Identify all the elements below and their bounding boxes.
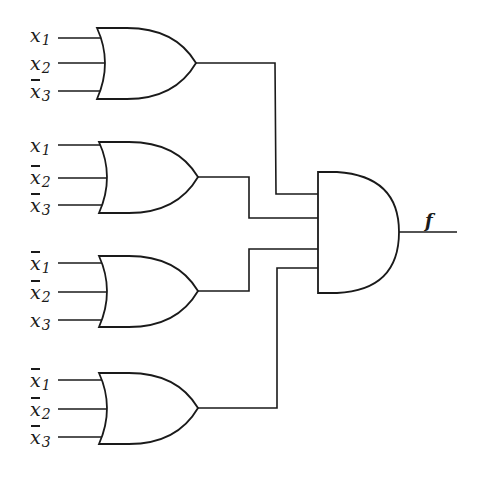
output-label: f [425, 210, 433, 231]
negation-bar [31, 165, 40, 167]
negation-bar [31, 397, 40, 399]
input-label: x1 [30, 26, 51, 45]
input-label-negated: x2 [30, 400, 51, 419]
negation-bar [31, 280, 40, 282]
negation-bar [31, 425, 40, 427]
negation-bar [31, 79, 40, 81]
input-label-negated: x1 [30, 371, 51, 390]
and-gate [318, 172, 399, 293]
or-gate-4 [58, 373, 198, 444]
or-gate-3 [58, 256, 198, 327]
input-label: x2 [30, 54, 51, 73]
input-label-negated: x1 [30, 254, 51, 273]
wire-or2-to-and [198, 177, 318, 218]
input-label-negated: x3 [30, 428, 51, 447]
input-label: x1 [30, 136, 51, 155]
wire-or4-to-and [198, 268, 318, 408]
negation-bar [31, 193, 40, 195]
or-gate-2 [58, 142, 198, 213]
circuit-diagram [0, 0, 479, 478]
input-label-negated: x2 [30, 283, 51, 302]
negation-bar [31, 251, 40, 253]
or-gate-1 [58, 28, 196, 99]
wire-or3-to-and [198, 249, 318, 291]
input-label-negated: x3 [30, 82, 51, 101]
input-label: x3 [30, 311, 51, 330]
input-label-negated: x2 [30, 168, 51, 187]
wire-or1-to-and [196, 63, 318, 194]
input-label-negated: x3 [30, 196, 51, 215]
negation-bar [31, 368, 40, 370]
